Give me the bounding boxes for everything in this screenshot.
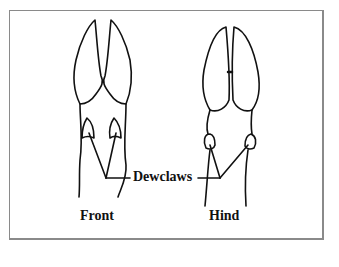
front-hoof-illustration — [74, 20, 131, 197]
hind-hoof-illustration — [198, 27, 259, 206]
hind-label: Hind — [209, 208, 239, 224]
front-label: Front — [80, 208, 114, 224]
dewclaws-label: Dewclaws — [133, 169, 192, 185]
hoof-diagram — [0, 0, 339, 267]
